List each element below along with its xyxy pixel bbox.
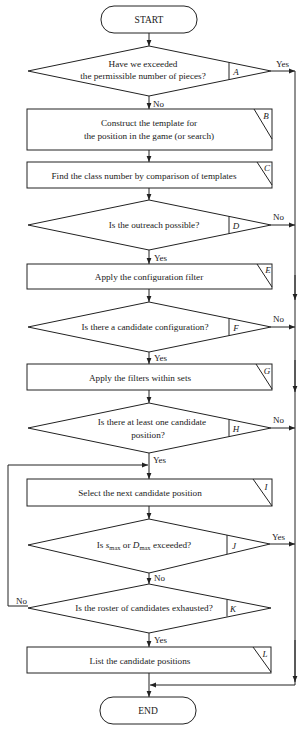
decision-h-line2: position? <box>131 430 165 440</box>
process-g: Apply the filters within sets G <box>27 364 272 390</box>
decision-f: Is there a candidate configuration? F <box>28 302 271 352</box>
decision-d-label: D <box>232 221 240 231</box>
edge-label-a-yes: Yes <box>276 59 290 69</box>
edge-label-d-yes: Yes <box>154 253 168 263</box>
process-l-text: List the candidate positions <box>90 656 191 666</box>
process-e: Apply the configuration filter E <box>27 264 272 289</box>
process-i: Select the next candidate position I <box>27 479 272 506</box>
edge-label-k-no: No <box>16 596 27 606</box>
decision-h-label: H <box>232 424 240 434</box>
process-c-text: Find the class number by comparison of t… <box>52 171 237 181</box>
process-i-text: Select the next candidate position <box>78 488 202 498</box>
decision-k: Is the roster of candidates exhausted? K <box>28 584 271 633</box>
edge-label-a-no: No <box>153 99 164 109</box>
decision-a-line2: the permissible number of pieces? <box>80 71 206 81</box>
decision-f-label: F <box>232 323 239 333</box>
end-text: END <box>138 706 158 716</box>
decision-a-line1: Have we exceeded <box>109 59 178 69</box>
process-e-text: Apply the configuration filter <box>95 272 203 282</box>
decision-d-text: Is the outreach possible? <box>109 220 200 230</box>
end-terminal: END <box>100 697 196 724</box>
process-b-line1: Construct the template for <box>101 118 197 128</box>
flowchart: START Have we exceeded the permissible n… <box>0 0 300 733</box>
start-terminal: START <box>101 6 197 33</box>
process-l-label: L <box>261 649 267 659</box>
edge-label-h-yes: Yes <box>153 455 167 465</box>
decision-a: Have we exceeded the permissible number … <box>28 46 271 96</box>
edge-label-k-yes: Yes <box>154 635 168 645</box>
decision-h: Is there at least one candidate position… <box>28 403 271 453</box>
edge-label-d-no: No <box>273 212 284 222</box>
process-g-text: Apply the filters within sets <box>89 373 191 383</box>
edge-label-h-no: No <box>273 415 284 425</box>
decision-f-text: Is there a candidate configuration? <box>81 322 208 332</box>
process-b: Construct the template for the position … <box>27 109 272 150</box>
decision-a-label: A <box>232 67 239 77</box>
process-e-label: E <box>264 265 271 275</box>
edge-label-f-no: No <box>273 314 284 324</box>
decision-j: Is smax or Dmax exceeded? J <box>28 519 270 573</box>
process-b-line2: the position in the game (or search) <box>84 131 214 141</box>
decision-d: Is the outreach possible? D <box>28 200 271 250</box>
edge-label-f-yes: Yes <box>154 353 168 363</box>
process-c-label: C <box>264 163 271 173</box>
process-l: List the candidate positions L <box>27 647 271 673</box>
start-text: START <box>135 15 164 25</box>
decision-k-text: Is the roster of candidates exhausted? <box>75 603 213 613</box>
edge-label-j-no: No <box>154 573 165 583</box>
process-g-label: G <box>264 366 271 376</box>
decision-h-line1: Is there at least one candidate <box>98 417 206 427</box>
process-c: Find the class number by comparison of t… <box>27 162 272 188</box>
edge-label-j-yes: Yes <box>272 532 286 542</box>
process-b-label: B <box>263 111 269 121</box>
decision-k-label: K <box>229 604 237 614</box>
